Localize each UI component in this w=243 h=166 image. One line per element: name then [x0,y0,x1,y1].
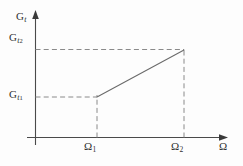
gt2-base: G [9,31,17,43]
gt1-base: G [9,88,17,100]
x-tick-label-omega1: Ω1 [84,141,96,154]
y-axis-label-base: G [16,10,24,22]
y-tick-label-gt2: Gt2 [9,32,23,45]
x-tick-label-omega2: Ω2 [171,141,183,154]
omega1-sub: 1 [92,145,96,154]
y-tick-label-gt1: Gt1 [9,89,23,102]
plot-canvas [0,0,243,166]
gt1-subsub: 1 [19,94,22,101]
y-axis-label: Gt [16,11,26,24]
gt2-subsub: 2 [19,37,22,44]
x-axis-label: Ω [219,141,227,152]
omega2-sub: 2 [179,145,183,154]
gain-curve-ramp [97,50,184,97]
y-axis-arrow-icon [32,10,39,19]
y-axis-label-sub: t [24,15,26,24]
gain-frequency-figure: Gt Gt2 Gt1 Ω1 Ω2 Ω [0,0,243,166]
